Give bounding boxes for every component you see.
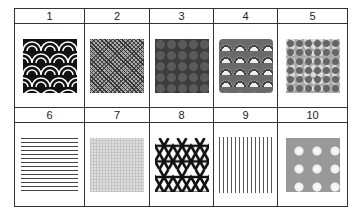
- header-cell: 4: [214, 9, 278, 24]
- pattern-cell: [278, 24, 348, 108]
- header-cell: 9: [214, 108, 278, 123]
- vertical-lines-pattern: [219, 137, 272, 193]
- pattern-cell: [15, 24, 85, 108]
- header-row-1: 1 2 3 4 5: [15, 9, 348, 24]
- header-row-2: 6 7 8 9 10: [15, 108, 348, 123]
- header-cell: 10: [278, 108, 348, 123]
- header-cell: 2: [85, 9, 150, 24]
- pattern-cell: [150, 24, 214, 108]
- header-cell: 5: [278, 9, 348, 24]
- pattern-cell: [214, 123, 278, 207]
- header-cell: 8: [150, 108, 214, 123]
- horizontal-lines-pattern: [21, 138, 78, 191]
- pattern-cell: [214, 24, 278, 108]
- pattern-cell: [85, 24, 150, 108]
- kagome-lattice-pattern: [155, 138, 209, 192]
- pattern-table: 1 2 3 4 5: [14, 8, 348, 207]
- header-cell: 3: [150, 9, 214, 24]
- light-texture-pattern: [90, 138, 144, 192]
- pattern-cell: [150, 123, 214, 207]
- header-cell: 1: [15, 9, 85, 24]
- pattern-cell: [85, 123, 150, 207]
- pattern-cell: [15, 123, 85, 207]
- fan-wave-pattern: [219, 39, 273, 93]
- fine-dotted-pattern: [90, 39, 144, 93]
- seigaiha-wave-pattern: [23, 39, 77, 93]
- pattern-cell: [278, 123, 348, 207]
- pattern-row-2: [15, 123, 348, 207]
- floral-mosaic-pattern: [286, 39, 340, 93]
- dark-circle-pattern: [155, 39, 209, 93]
- sakura-dot-pattern: [286, 138, 340, 192]
- header-cell: 6: [15, 108, 85, 123]
- header-cell: 7: [85, 108, 150, 123]
- pattern-row-1: [15, 24, 348, 108]
